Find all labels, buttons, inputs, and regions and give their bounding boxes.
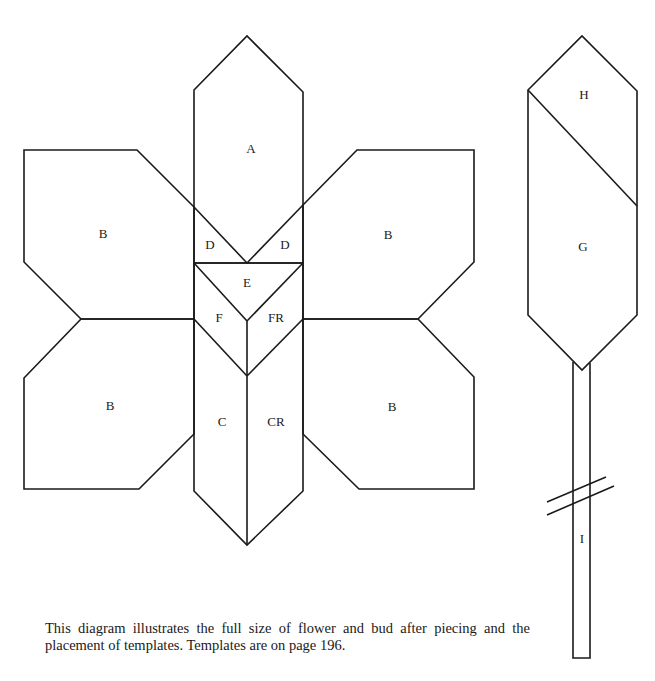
label-g: G: [578, 239, 587, 254]
diagram-caption: This diagram illustrates the full size o…: [45, 620, 530, 654]
label-e: E: [243, 275, 251, 290]
stem-break-mark-upper: [547, 477, 606, 502]
label-i: I: [580, 531, 584, 546]
piece-d-left-edge: [194, 207, 247, 263]
flower-bud-diagram: A B B D D E F FR B C CR B H G I: [0, 0, 655, 681]
label-c: C: [218, 414, 227, 429]
piece-d-right-edge: [247, 205, 303, 263]
piece-c-outline: [194, 263, 303, 545]
piece-h-divider: [528, 90, 637, 206]
label-f: F: [215, 310, 222, 325]
label-b-lower-right: B: [388, 399, 397, 414]
label-b-lower-left: B: [106, 398, 115, 413]
label-b-upper-left: B: [99, 226, 108, 241]
label-b-upper-right: B: [384, 227, 393, 242]
label-fr: FR: [268, 310, 284, 325]
label-d-right: D: [280, 237, 289, 252]
piece-b-upper-left: [24, 150, 194, 319]
stem-break-mark-lower: [547, 486, 614, 515]
label-cr: CR: [267, 414, 285, 429]
piece-i-stem: [573, 362, 590, 658]
label-d-left: D: [205, 237, 214, 252]
label-a: A: [246, 141, 256, 156]
piece-f-lower: [194, 319, 247, 376]
piece-fr-lower: [247, 319, 303, 376]
label-h: H: [579, 87, 588, 102]
